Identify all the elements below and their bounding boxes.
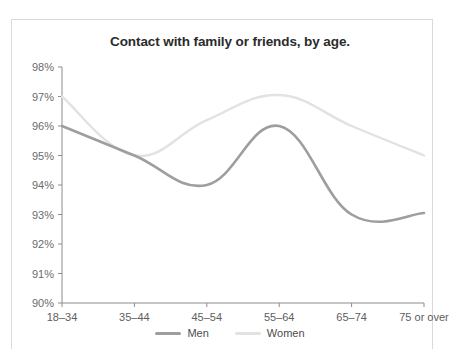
x-axis-tick-label: 35–44 — [119, 311, 150, 323]
x-axis-tick-label: 45–54 — [192, 311, 223, 323]
chart-svg: 98%97%96%95%94%93%92%91%90%18–3435–4445–… — [0, 0, 460, 349]
y-axis-tick-label: 97% — [32, 91, 54, 103]
x-axis-tick-label: 75 or over — [399, 311, 449, 323]
legend-item-men[interactable]: Men — [155, 327, 208, 339]
series-line-men — [62, 126, 424, 222]
chart-plot-area: 98%97%96%95%94%93%92%91%90%18–3435–4445–… — [0, 0, 460, 349]
x-axis-tick-label: 55–64 — [264, 311, 295, 323]
y-axis-tick-label: 92% — [32, 238, 54, 250]
x-axis-tick-label: 18–34 — [47, 311, 78, 323]
legend-swatch-women — [235, 332, 261, 335]
y-axis-tick-label: 95% — [32, 150, 54, 162]
y-axis-tick-label: 94% — [32, 179, 54, 191]
y-axis-tick-label: 93% — [32, 209, 54, 221]
x-axis-tick-label: 65–74 — [336, 311, 367, 323]
legend-label-men: Men — [187, 327, 208, 339]
y-axis-tick-label: 98% — [32, 61, 54, 73]
legend-label-women: Women — [267, 327, 305, 339]
legend-swatch-men — [155, 332, 181, 335]
chart-legend: Men Women — [0, 327, 460, 339]
y-axis-tick-label: 90% — [32, 297, 54, 309]
y-axis-tick-label: 91% — [32, 268, 54, 280]
y-axis-tick-label: 96% — [32, 120, 54, 132]
legend-item-women[interactable]: Women — [235, 327, 305, 339]
